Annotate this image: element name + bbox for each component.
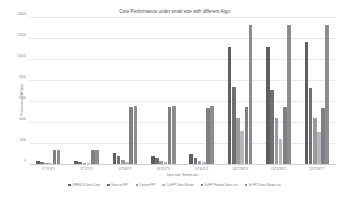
y-axis-tick-label: 14000 bbox=[18, 12, 26, 16]
legend-item[interactable]: Custom FFT bbox=[136, 183, 156, 187]
bar-group: 33*33/3*3 bbox=[106, 18, 144, 165]
x-axis-line bbox=[29, 164, 336, 165]
legend-item[interactable]: Ifa FFT Fastest Direct cuv bbox=[201, 183, 238, 187]
bar bbox=[168, 107, 172, 165]
bar bbox=[57, 150, 61, 165]
y-axis-tick-label: 6000 bbox=[19, 96, 26, 100]
legend-item[interactable]: Cv-FFT Direct Reuse bbox=[162, 183, 193, 187]
legend-swatch-icon bbox=[107, 184, 110, 187]
bar-series-layer: 17*17/3*317*17/5*533*33/3*365*65/3*365*6… bbox=[29, 18, 336, 165]
bar bbox=[321, 108, 325, 165]
bar bbox=[236, 118, 240, 165]
bar bbox=[129, 107, 133, 165]
x-axis-tick-label: 17*17/3*3 bbox=[42, 167, 55, 171]
legend-item[interactable]: Direct w/ FFT bbox=[107, 183, 128, 187]
bar bbox=[287, 25, 291, 165]
x-axis-tick-label: 65*65/3*3 bbox=[157, 167, 170, 171]
bar-group: 17*17/3*3 bbox=[29, 18, 67, 165]
bar-group: 129*129/5*5 bbox=[259, 18, 297, 165]
y-axis-tick-label: 8000 bbox=[19, 75, 26, 79]
bar-group: 65*65/5*5 bbox=[183, 18, 221, 165]
bar bbox=[232, 87, 236, 165]
y-axis-tick-label: 0 bbox=[24, 159, 26, 163]
bar bbox=[266, 47, 270, 165]
bar bbox=[95, 150, 99, 165]
bar bbox=[305, 42, 309, 165]
legend-label: Custom FFT bbox=[139, 183, 155, 187]
legend-swatch-icon bbox=[162, 184, 165, 187]
chart-title: Core Performance under small size with d… bbox=[0, 9, 349, 14]
bar bbox=[249, 25, 253, 165]
legend-label: Ifa FFT Fastest Direct cuv bbox=[205, 183, 238, 187]
x-axis-tick-label: 129*129/3*3 bbox=[232, 167, 248, 171]
x-axis-tick-label: 17*17/5*5 bbox=[80, 167, 93, 171]
bar bbox=[309, 88, 313, 165]
bar-chart: Core Performance under small size with d… bbox=[0, 0, 349, 200]
bar bbox=[313, 118, 317, 165]
bar bbox=[210, 106, 214, 165]
bar bbox=[270, 90, 274, 165]
bar-group: 129*129/3*3 bbox=[221, 18, 259, 165]
bar bbox=[172, 106, 176, 165]
y-axis-tick-label: 2000 bbox=[19, 138, 26, 142]
bar bbox=[134, 106, 138, 165]
bar-group: 129*129/7*7 bbox=[298, 18, 336, 165]
x-axis-tick-label: 129*129/5*5 bbox=[270, 167, 286, 171]
bar bbox=[228, 47, 232, 165]
legend-swatch-icon bbox=[136, 184, 139, 187]
bar bbox=[275, 118, 279, 165]
bar bbox=[240, 131, 244, 165]
legend-swatch-icon bbox=[245, 184, 248, 187]
bar-group: 65*65/3*3 bbox=[144, 18, 182, 165]
bar bbox=[325, 25, 329, 165]
legend-label: Ifa FFT Direct Reuse cuv bbox=[249, 183, 281, 187]
y-axis-title: Performance (MFlops) bbox=[20, 84, 24, 116]
bar bbox=[283, 107, 287, 165]
plot-area: 02000400060008000100001200014000 17*17/3… bbox=[29, 18, 336, 165]
y-axis-tick-label: 10000 bbox=[18, 54, 26, 58]
bar bbox=[317, 132, 321, 165]
legend-label: Cv-FFT Direct Reuse bbox=[166, 183, 193, 187]
legend-swatch-icon bbox=[68, 184, 71, 187]
x-axis-tick-label: 129*129/7*7 bbox=[309, 167, 325, 171]
bar bbox=[279, 139, 283, 165]
y-axis-tick-label: 12000 bbox=[18, 33, 26, 37]
legend-label: OPENCV Direct Conv bbox=[72, 183, 100, 187]
legend-swatch-icon bbox=[201, 184, 204, 187]
bar bbox=[53, 150, 57, 165]
bar bbox=[91, 150, 95, 165]
bar bbox=[245, 107, 249, 165]
chart-legend: OPENCV Direct ConvDirect w/ FFTCustom FF… bbox=[0, 183, 349, 187]
y-axis-tick-label: 4000 bbox=[19, 117, 26, 121]
x-axis-title: Input size / Kernel size bbox=[29, 173, 336, 177]
x-axis-tick-label: 33*33/3*3 bbox=[119, 167, 132, 171]
legend-item[interactable]: OPENCV Direct Conv bbox=[68, 183, 100, 187]
legend-label: Direct w/ FFT bbox=[111, 183, 128, 187]
legend-item[interactable]: Ifa FFT Direct Reuse cuv bbox=[245, 183, 281, 187]
bar-group: 17*17/5*5 bbox=[67, 18, 105, 165]
x-axis-tick-label: 65*65/5*5 bbox=[195, 167, 208, 171]
bar bbox=[206, 108, 210, 165]
